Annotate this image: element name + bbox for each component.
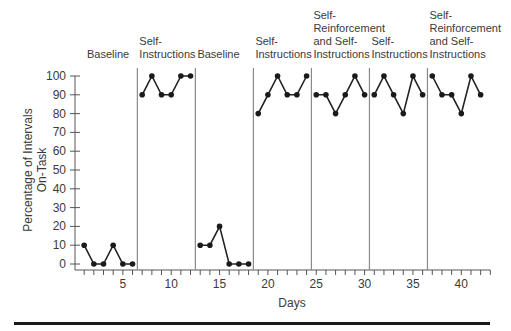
phase-label: Self-Instructions xyxy=(139,35,196,60)
data-point xyxy=(255,111,261,117)
phase-label-line: Instructions xyxy=(371,48,428,60)
y-tick-label: 40 xyxy=(53,182,67,196)
x-tick-label: 35 xyxy=(406,277,420,291)
y-tick-label: 70 xyxy=(53,125,67,139)
data-point xyxy=(478,92,484,98)
data-point xyxy=(275,73,281,79)
phase-series xyxy=(313,73,367,116)
y-axis-title-line: On-Task xyxy=(35,147,49,193)
data-point xyxy=(459,111,465,117)
phase-label-line: Instructions xyxy=(313,48,370,60)
data-point xyxy=(342,92,348,98)
data-point xyxy=(352,73,358,79)
x-tick-label: 30 xyxy=(358,277,372,291)
phase-label-line: and Self- xyxy=(313,35,357,47)
data-point xyxy=(391,92,397,98)
phase-labels: BaselineSelf-InstructionsBaselineSelf-In… xyxy=(87,9,501,60)
phase-label-line: Self- xyxy=(139,35,162,47)
data-point xyxy=(139,92,145,98)
data-point xyxy=(371,92,377,98)
x-tick-label: 5 xyxy=(120,277,127,291)
series-line xyxy=(84,245,132,264)
data-point xyxy=(429,73,435,79)
data-point xyxy=(439,92,445,98)
data-point xyxy=(149,73,155,79)
x-tick-label: 25 xyxy=(310,277,324,291)
data-point xyxy=(130,261,136,267)
data-point xyxy=(362,92,368,98)
data-series xyxy=(81,73,483,267)
data-point xyxy=(101,261,107,267)
y-tick-label: 90 xyxy=(53,88,67,102)
phase-label-line: Reinforcement xyxy=(313,22,385,34)
data-point xyxy=(420,92,426,98)
data-point xyxy=(178,73,184,79)
data-point xyxy=(449,92,455,98)
data-point xyxy=(197,242,203,248)
data-point xyxy=(333,111,339,117)
single-case-design-chart: BaselineSelf-InstructionsBaselineSelf-In… xyxy=(0,0,511,331)
data-point xyxy=(323,92,329,98)
phase-label-line: Self- xyxy=(371,35,394,47)
phase-label-line: and Self- xyxy=(429,35,473,47)
data-point xyxy=(284,92,290,98)
phase-label-line: Self- xyxy=(255,35,278,47)
phase-label-line: Reinforcement xyxy=(429,22,501,34)
data-point xyxy=(468,73,474,79)
y-tick-label: 80 xyxy=(53,107,67,121)
y-tick-label: 100 xyxy=(46,69,66,83)
data-point xyxy=(400,111,406,117)
data-point xyxy=(313,92,319,98)
phase-series xyxy=(197,224,251,267)
phase-label-line: Baseline xyxy=(197,48,239,60)
phase-series xyxy=(81,242,135,266)
phase-label-line: Instructions xyxy=(139,48,196,60)
data-point xyxy=(120,261,126,267)
y-tick-label: 60 xyxy=(53,144,67,158)
data-point xyxy=(246,261,252,267)
y-axis-title-line: Percentage of Intervals xyxy=(21,108,35,231)
phase-label: Self-Instructions xyxy=(371,35,428,60)
x-tick-label: 20 xyxy=(261,277,275,291)
data-point xyxy=(168,92,174,98)
data-point xyxy=(188,73,194,79)
x-tick-label: 10 xyxy=(165,277,179,291)
data-point xyxy=(217,224,223,230)
data-point xyxy=(410,73,416,79)
y-tick-label: 10 xyxy=(53,238,67,252)
y-tick-label: 0 xyxy=(59,257,66,271)
data-point xyxy=(236,261,242,267)
phase-change-lines xyxy=(137,68,427,270)
phase-label: Baseline xyxy=(197,48,239,60)
x-tick-label: 15 xyxy=(213,277,227,291)
x-axis: 510152025303540 xyxy=(75,270,490,291)
phase-label-line: Instructions xyxy=(429,48,486,60)
phase-label-line: Instructions xyxy=(255,48,312,60)
series-line xyxy=(142,76,190,95)
data-point xyxy=(207,242,213,248)
data-point xyxy=(381,73,387,79)
phase-label-line: Baseline xyxy=(87,48,129,60)
phase-label-line: Self- xyxy=(429,9,452,21)
y-axis: 0102030405060708090100 xyxy=(46,69,80,271)
data-point xyxy=(81,242,87,248)
y-tick-label: 30 xyxy=(53,201,67,215)
data-point xyxy=(304,73,310,79)
y-axis-title: Percentage of IntervalsOn-Task xyxy=(21,108,49,231)
phase-label-line: Self- xyxy=(313,9,336,21)
series-line xyxy=(374,76,422,114)
data-point xyxy=(265,92,271,98)
data-point xyxy=(159,92,165,98)
y-tick-label: 50 xyxy=(53,163,67,177)
phase-series xyxy=(371,73,425,116)
y-tick-label: 20 xyxy=(53,219,67,233)
data-point xyxy=(91,261,97,267)
bottom-rule xyxy=(14,322,490,325)
phase-series xyxy=(255,73,309,116)
x-axis-title: Days xyxy=(278,296,305,310)
phase-label: Self-Instructions xyxy=(255,35,312,60)
phase-series xyxy=(429,73,483,116)
x-tick-label: 40 xyxy=(455,277,469,291)
phase-series xyxy=(139,73,193,97)
data-point xyxy=(226,261,232,267)
